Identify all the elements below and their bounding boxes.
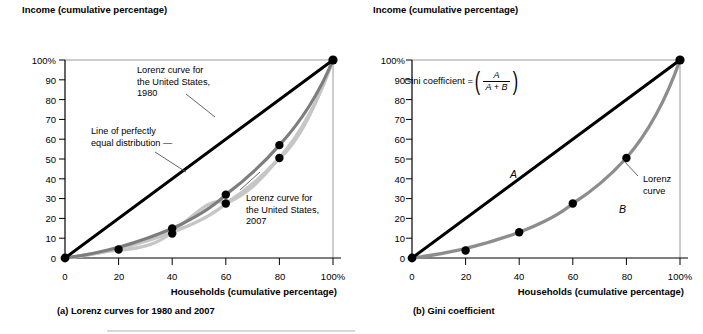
panel-b-marker-40 bbox=[515, 228, 523, 236]
panel-b-marker-origin bbox=[408, 254, 417, 263]
bottom-divider bbox=[107, 330, 355, 332]
panel-a-annotation-equality-line: Line of perfectly equal distribution — bbox=[91, 126, 172, 149]
panel-b-gini-formula-lhs: Gini coefficient = bbox=[404, 76, 473, 86]
panel-b-gini-coefficient: Income (cumulative percentage) 100% 90 8… bbox=[351, 0, 702, 334]
panel-b-x-ticks bbox=[466, 258, 680, 265]
panel-a-plot bbox=[0, 0, 351, 334]
panel-a-marker-20 bbox=[114, 245, 122, 253]
panel-b-leader-lorenz bbox=[623, 160, 638, 176]
paren-open-icon: ( bbox=[474, 70, 479, 92]
panel-b-marker-100 bbox=[675, 55, 684, 64]
panel-a-marker-40-2007 bbox=[168, 229, 176, 237]
panel-a-leader-equality bbox=[155, 152, 186, 172]
lorenz-gini-figure: Income (cumulative percentage) 100% 90 8… bbox=[0, 0, 703, 334]
panel-b-marker-60 bbox=[569, 199, 577, 207]
panel-a-y-ticks bbox=[59, 60, 65, 238]
panel-b-area-label-b: B bbox=[619, 203, 626, 215]
panel-b-plot bbox=[351, 0, 702, 334]
panel-a-x-ticks bbox=[119, 258, 333, 265]
panel-b-gini-fraction: A A + B bbox=[483, 70, 511, 91]
panel-a-caption: (a) Lorenz curves for 1980 and 2007 bbox=[57, 306, 215, 316]
panel-a-marker-60-1980 bbox=[222, 190, 230, 198]
panel-b-gini-formula: Gini coefficient = ( A A + B ) bbox=[404, 70, 520, 92]
panel-a-lorenz-curves: Income (cumulative percentage) 100% 90 8… bbox=[0, 0, 351, 334]
panel-a-annotation-lorenz-1980: Lorenz curve for the United States, 1980 bbox=[137, 65, 210, 100]
panel-b-area-label-a: A bbox=[510, 168, 517, 180]
panel-b-gini-numerator: A bbox=[490, 70, 502, 80]
panel-a-marker-60-2007 bbox=[222, 199, 230, 207]
panel-b-annotation-lorenz-curve: Lorenz curve bbox=[643, 174, 671, 197]
panel-b-marker-20 bbox=[461, 246, 469, 254]
panel-b-gini-denominator: A + B bbox=[483, 81, 511, 92]
panel-a-annotation-lorenz-2007: Lorenz curve for the United States, 2007 bbox=[246, 193, 319, 228]
panel-b-caption: (b) Gini coefficient bbox=[413, 306, 495, 316]
panel-a-marker-origin bbox=[61, 254, 70, 263]
paren-close-icon: ) bbox=[513, 70, 518, 92]
panel-a-marker-80-1980 bbox=[275, 141, 283, 149]
panel-a-marker-100 bbox=[328, 55, 337, 64]
panel-a-marker-80-2007 bbox=[275, 154, 283, 162]
